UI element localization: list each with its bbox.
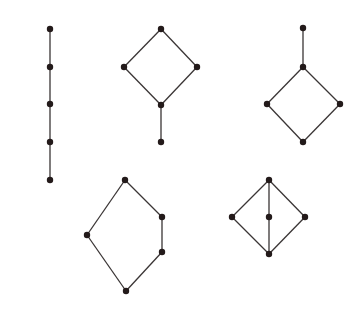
diagram-pentagon-N5: [84, 177, 165, 294]
node: [300, 25, 306, 31]
edge: [232, 217, 269, 254]
edge: [269, 217, 305, 254]
node: [266, 214, 272, 220]
node: [264, 101, 270, 107]
node: [302, 214, 308, 220]
node: [194, 64, 200, 70]
node: [300, 64, 306, 70]
node: [158, 139, 164, 145]
edge: [267, 104, 303, 142]
diagram-diamond-M3: [229, 177, 308, 257]
edge: [125, 180, 162, 217]
edge: [267, 67, 303, 104]
edge: [126, 252, 162, 291]
diagram-diamond-with-top-tail: [264, 25, 343, 145]
node: [47, 26, 53, 32]
node: [121, 64, 127, 70]
edge: [232, 180, 269, 217]
node: [159, 214, 165, 220]
diagram-chain-5: [47, 26, 53, 183]
node: [47, 139, 53, 145]
node: [122, 177, 128, 183]
node: [159, 249, 165, 255]
node: [229, 214, 235, 220]
edge: [87, 180, 125, 235]
node: [47, 101, 53, 107]
edge: [269, 180, 305, 217]
node: [84, 232, 90, 238]
node: [123, 288, 129, 294]
node: [47, 177, 53, 183]
edge: [124, 29, 161, 67]
node: [47, 64, 53, 70]
node: [158, 26, 164, 32]
edge: [124, 67, 161, 105]
node: [300, 139, 306, 145]
diagram-diamond-with-bottom-tail: [121, 26, 200, 145]
edge: [161, 29, 197, 67]
node: [266, 177, 272, 183]
node: [337, 101, 343, 107]
node: [266, 251, 272, 257]
edge: [161, 67, 197, 105]
edge: [87, 235, 126, 291]
node: [158, 102, 164, 108]
hasse-diagrams-canvas: [0, 0, 360, 311]
edge: [303, 67, 340, 104]
edge: [303, 104, 340, 142]
